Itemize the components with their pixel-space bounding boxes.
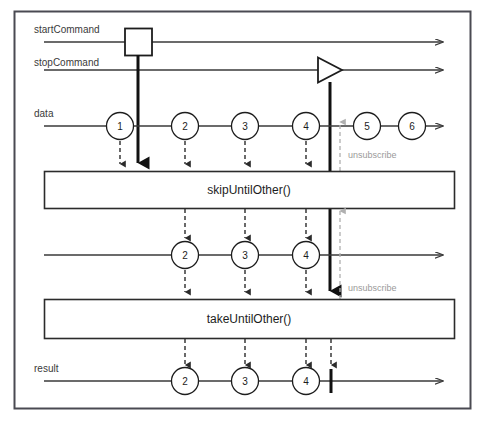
marble-diagram-canvas: startCommand stopCommand data 1 2 3 4 xyxy=(0,0,485,423)
result-marble-4: 4 xyxy=(293,368,320,395)
unsubscribe-label-1: unsubscribe xyxy=(348,150,397,160)
data-marble-3: 3 xyxy=(232,113,259,140)
result-marble-3-value: 3 xyxy=(242,376,248,387)
intermediate-marble-2-value: 2 xyxy=(182,250,188,261)
unsubscribe-label-2: unsubscribe xyxy=(348,283,397,293)
data-marble-2: 2 xyxy=(172,113,199,140)
data-marble-4-value: 4 xyxy=(303,121,309,132)
data-marble-4: 4 xyxy=(293,113,320,140)
intermediate-marble-4-value: 4 xyxy=(303,250,309,261)
intermediate-marble-4: 4 xyxy=(293,242,320,269)
result-marble-2-value: 2 xyxy=(182,376,188,387)
operator-label-take-until-other: takeUntilOther() xyxy=(207,312,292,326)
intermediate-marble-3: 3 xyxy=(232,242,259,269)
stream-label-stop-command: stopCommand xyxy=(34,57,99,68)
data-marble-5: 5 xyxy=(354,113,381,140)
data-marble-1-value: 1 xyxy=(117,121,123,132)
intermediate-marble-3-value: 3 xyxy=(242,250,248,261)
result-marble-4-value: 4 xyxy=(303,376,309,387)
marble-diagram: startCommand stopCommand data 1 2 3 4 xyxy=(0,0,485,423)
result-marble-3: 3 xyxy=(232,368,259,395)
data-marble-2-value: 2 xyxy=(182,121,188,132)
data-marble-6: 6 xyxy=(399,113,426,140)
result-marble-2: 2 xyxy=(172,368,199,395)
diagram-border xyxy=(15,12,471,409)
stream-label-data: data xyxy=(34,108,54,119)
operator-label-skip-until-other: skipUntilOther() xyxy=(207,183,290,197)
data-marble-6-value: 6 xyxy=(409,121,415,132)
data-marble-5-value: 5 xyxy=(364,121,370,132)
data-marble-1: 1 xyxy=(107,113,134,140)
data-marble-3-value: 3 xyxy=(242,121,248,132)
start-command-square-marker xyxy=(125,29,152,56)
stream-label-start-command: startCommand xyxy=(34,24,100,35)
intermediate-marble-2: 2 xyxy=(172,242,199,269)
stream-label-result: result xyxy=(34,363,59,374)
